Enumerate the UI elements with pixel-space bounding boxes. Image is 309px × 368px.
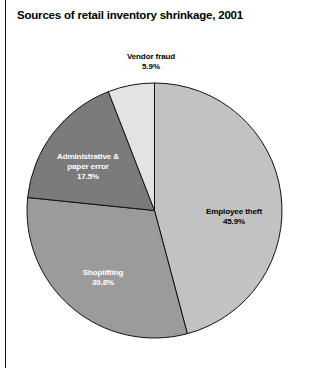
- slice-label-shoplifting-value: 30.8%: [58, 278, 148, 288]
- slice-label-shoplifting: Shoplifting 30.8%: [58, 268, 148, 288]
- chart-title: Sources of retail inventory shrinkage, 2…: [17, 8, 297, 22]
- slice-label-administrative-paper-error-line1: Administrative &: [57, 152, 119, 161]
- slice-label-shoplifting-name: Shoplifting: [83, 268, 124, 277]
- slice-label-vendor-fraud-value: 5.9%: [96, 62, 206, 72]
- slice-label-vendor-fraud-name: Vendor fraud: [127, 52, 175, 61]
- slice-label-administrative-paper-error-line2: paper error: [36, 162, 140, 172]
- slice-label-employee-theft: Employee theft 45.9%: [188, 207, 280, 227]
- chart-figure: Sources of retail inventory shrinkage, 2…: [0, 0, 309, 368]
- slice-label-employee-theft-value: 45.9%: [188, 217, 280, 227]
- slice-label-employee-theft-name: Employee theft: [206, 207, 262, 216]
- left-margin-rule: [5, 0, 6, 368]
- slice-label-vendor-fraud: Vendor fraud 5.9%: [96, 52, 206, 72]
- slice-label-administrative-paper-error-value: 17.5%: [36, 172, 140, 182]
- slice-label-administrative-paper-error: Administrative & paper error 17.5%: [36, 152, 140, 182]
